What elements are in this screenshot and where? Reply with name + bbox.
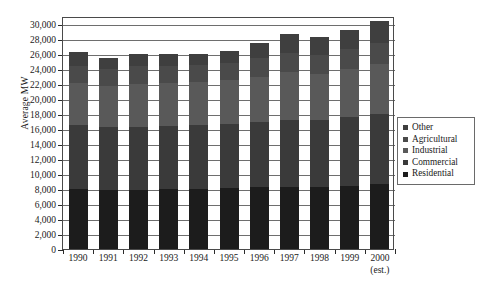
bar-segment-residential: [99, 190, 118, 249]
bar-segment-agricultural: [129, 66, 148, 83]
bar-segment-agricultural: [370, 43, 389, 64]
y-axis-tick: [58, 100, 63, 101]
bar-segment-agricultural: [99, 69, 118, 86]
bar-stack: [129, 54, 148, 249]
y-axis-tick-label: 26,000: [30, 50, 56, 60]
bar-segment-other: [340, 30, 359, 50]
legend-swatch-commercial: [403, 160, 408, 165]
y-axis-tick: [58, 85, 63, 86]
bar-stack: [159, 54, 178, 249]
bar-segment-residential: [220, 188, 239, 249]
bar-stack: [340, 30, 359, 249]
y-axis-title: Average MW: [20, 48, 30, 158]
bar-segment-agricultural: [250, 58, 269, 77]
bar-segment-industrial: [280, 72, 299, 119]
bar-segment-other: [280, 34, 299, 53]
y-axis-tick: [58, 160, 63, 161]
y-axis-tick: [58, 55, 63, 56]
x-axis-tick-sublabel: (est.): [357, 265, 403, 277]
y-axis-tick: [58, 70, 63, 71]
legend-swatch-other: [403, 125, 408, 130]
legend-swatch-agricultural: [403, 137, 408, 142]
bar-segment-residential: [129, 190, 148, 249]
legend-swatch-residential: [403, 172, 408, 177]
legend-label: Commercial: [412, 157, 458, 169]
y-axis-tick: [58, 190, 63, 191]
y-axis-tick-label: 8,000: [35, 185, 56, 195]
bar-segment-residential: [370, 184, 389, 249]
y-axis-tick-label: 4,000: [35, 215, 56, 225]
bar-segment-industrial: [250, 77, 269, 122]
bar-segment-other: [129, 54, 148, 66]
y-axis-tick: [58, 145, 63, 146]
bar-segment-agricultural: [280, 53, 299, 73]
y-axis-tick-label: 28,000: [30, 35, 56, 45]
bar-segment-industrial: [129, 84, 148, 127]
bar-segment-residential: [280, 187, 299, 249]
bar-segment-commercial: [159, 126, 178, 189]
y-axis-tick-label: 12,000: [30, 155, 56, 165]
bar-segment-industrial: [340, 69, 359, 117]
legend-item: Other: [403, 122, 470, 134]
bar-stack: [280, 34, 299, 249]
bar-segment-commercial: [220, 124, 239, 188]
bar-segment-industrial: [310, 74, 329, 121]
bar-segment-commercial: [129, 127, 148, 190]
bar-segment-other: [250, 43, 269, 58]
y-axis-tick-label: 24,000: [30, 65, 56, 75]
bar-segment-commercial: [280, 120, 299, 187]
bar-stack: [220, 51, 239, 249]
plot-area: 02,0004,0006,0008,00010,00012,00014,0001…: [62, 17, 394, 250]
bar-segment-residential: [310, 187, 329, 249]
bar-segment-agricultural: [220, 63, 239, 80]
bar-segment-agricultural: [189, 65, 208, 82]
bar-segment-other: [159, 54, 178, 66]
legend-item: Industrial: [403, 145, 470, 157]
bar-segment-industrial: [220, 80, 239, 124]
legend-item: Residential: [403, 168, 470, 180]
bar-segment-commercial: [189, 125, 208, 189]
legend-item: Agricultural: [403, 134, 470, 146]
y-axis-tick-label: 10,000: [30, 170, 56, 180]
y-axis-tick: [58, 175, 63, 176]
y-axis-tick-label: 18,000: [30, 110, 56, 120]
y-axis-tick-label: 14,000: [30, 140, 56, 150]
bar-segment-industrial: [69, 83, 88, 125]
bar-segment-agricultural: [310, 55, 329, 74]
bar-stack: [99, 58, 118, 249]
bar-segment-commercial: [250, 122, 269, 187]
y-axis-tick: [58, 115, 63, 116]
y-axis-tick: [58, 220, 63, 221]
bar-segment-industrial: [189, 82, 208, 125]
legend-label: Agricultural: [412, 134, 457, 146]
gridline: [63, 25, 395, 26]
bar-segment-other: [99, 58, 118, 69]
y-axis-tick-label: 30,000: [30, 20, 56, 30]
y-axis-tick-label: 22,000: [30, 80, 56, 90]
legend-item: Commercial: [403, 157, 470, 169]
y-axis-tick: [58, 205, 63, 206]
bar-segment-agricultural: [340, 49, 359, 69]
bar-segment-residential: [159, 189, 178, 249]
bar-segment-residential: [250, 187, 269, 249]
bar-segment-residential: [340, 186, 359, 249]
legend-label: Residential: [412, 168, 454, 180]
y-axis-tick: [58, 130, 63, 131]
legend-label: Other: [412, 122, 433, 134]
bar-stack: [370, 21, 389, 249]
y-axis-tick: [58, 25, 63, 26]
x-axis-tick-label: 2000(est.): [357, 253, 403, 276]
bar-segment-other: [220, 51, 239, 62]
stacked-bar-chart: Average MW 02,0004,0006,0008,00010,00012…: [0, 0, 479, 289]
bar-segment-commercial: [99, 127, 118, 189]
y-axis-tick-label: 16,000: [30, 125, 56, 135]
bar-segment-other: [370, 21, 389, 44]
y-axis-tick: [58, 40, 63, 41]
bar-stack: [310, 37, 329, 249]
bar-segment-commercial: [69, 125, 88, 189]
bar-segment-other: [310, 37, 329, 55]
legend-label: Industrial: [412, 145, 448, 157]
bar-segment-commercial: [340, 117, 359, 185]
bar-stack: [69, 52, 88, 249]
bar-segment-other: [69, 52, 88, 66]
